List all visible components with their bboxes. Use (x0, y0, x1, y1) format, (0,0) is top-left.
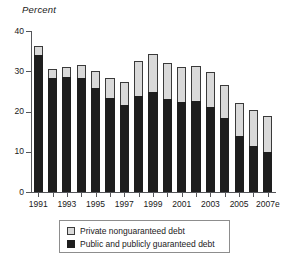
bar-2004 (220, 85, 229, 192)
x-tick (110, 193, 111, 197)
x-tick (124, 193, 125, 197)
x-tick (210, 193, 211, 197)
bar-1995 (91, 71, 100, 192)
bar-segment-public (148, 92, 157, 192)
y-tick-label-wrap: 30 (2, 67, 24, 76)
x-tick (239, 193, 240, 197)
legend-item-private: Private nonguaranteed debt (67, 225, 185, 237)
bar-2005 (235, 103, 244, 192)
x-tick (253, 193, 254, 197)
y-tick-label-wrap: 0 (2, 188, 24, 197)
x-tick (196, 193, 197, 197)
bar-segment-public (191, 101, 200, 192)
bar-segment-public (263, 152, 272, 192)
bar-segment-public (34, 55, 43, 192)
bar-segment-public (235, 136, 244, 192)
plot-area (31, 31, 275, 192)
bar-1997 (120, 82, 129, 192)
bar-1993 (62, 67, 71, 192)
y-tick-label-wrap: 10 (2, 147, 24, 156)
x-tick (225, 193, 226, 197)
bar-1998 (134, 61, 143, 192)
x-tick (182, 193, 183, 197)
bar-1991 (34, 46, 43, 192)
bar-2002 (191, 66, 200, 192)
x-tick (268, 193, 269, 197)
legend-label-private: Private nonguaranteed debt (80, 227, 185, 236)
y-tick (26, 192, 31, 193)
y-tick-label: 10 (4, 147, 24, 156)
bar-1996 (105, 78, 114, 192)
chart-legend: Private nonguaranteed debt Public and pu… (59, 220, 230, 253)
y-tick-label: 30 (4, 67, 24, 76)
bar-2003 (206, 72, 215, 192)
bar-segment-public (249, 146, 258, 192)
x-tick-label: 2007e (248, 199, 287, 209)
y-tick-label-wrap: 20 (2, 107, 24, 116)
x-tick (139, 193, 140, 197)
y-tick-label-wrap: 40 (2, 27, 24, 36)
legend-swatch-private-icon (67, 227, 75, 235)
bar-2001 (177, 67, 186, 192)
x-tick (53, 193, 54, 197)
bar-segment-public (91, 88, 100, 192)
bar-1992 (48, 69, 57, 192)
bar-2006 (249, 110, 258, 192)
bar-segment-public (206, 107, 215, 192)
bar-segment-public (220, 118, 229, 192)
bar-segment-public (177, 102, 186, 192)
x-tick (67, 193, 68, 197)
bar-segment-public (134, 96, 143, 192)
x-tick (38, 193, 39, 197)
y-tick-label: 20 (4, 107, 24, 116)
y-tick-label: 40 (4, 27, 24, 36)
chart-figure: Percent 010203040 1991199319951997199920… (0, 0, 287, 261)
bar-2000 (163, 63, 172, 192)
bar-segment-public (105, 98, 114, 192)
bar-segment-public (163, 99, 172, 192)
y-axis-title: Percent (22, 4, 56, 15)
legend-label-public: Public and publicly guaranteed debt (80, 240, 215, 249)
legend-item-public: Public and publicly guaranteed debt (67, 238, 215, 250)
bar-1994 (77, 65, 86, 192)
x-tick (96, 193, 97, 197)
bar-1999 (148, 54, 157, 192)
y-tick-label: 0 (4, 188, 24, 197)
x-tick (167, 193, 168, 197)
bar-segment-public (120, 105, 129, 192)
bar-2007e (263, 116, 272, 192)
x-tick (81, 193, 82, 197)
bar-segment-public (77, 78, 86, 192)
x-tick (153, 193, 154, 197)
bar-segment-public (48, 78, 57, 192)
bar-segment-public (62, 77, 71, 192)
legend-swatch-public-icon (67, 240, 75, 248)
